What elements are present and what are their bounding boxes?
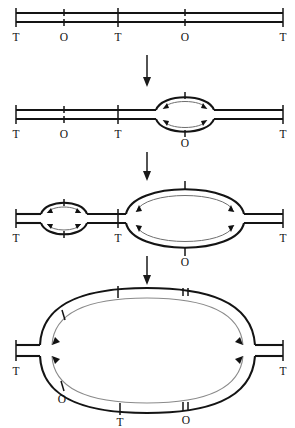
panel-2-bubble [156,92,214,137]
site-label-t-right: T [279,128,286,140]
site-label-o-right: O [182,414,190,426]
site-label-o-1: O [60,31,68,43]
site-label-t-left: T [12,128,19,140]
arrow-head-down-icon [143,171,151,181]
replication-diagram-svg: T O T O T [0,0,295,428]
panel-4-giant-eye [40,286,255,415]
site-label-t-right: T [279,31,286,43]
stage-arrow-3-4 [143,256,151,285]
panel-3-bubble-small [41,199,87,238]
stage-arrow-2-3 [143,152,151,181]
fork-arrow-lower-right-icon [201,120,207,126]
site-label-t-middle: T [116,416,123,428]
panel-2-labels: T O T O T [12,128,286,149]
panel-3-duplex [16,214,283,223]
site-label-o-1: O [60,128,68,140]
stage-arrow-1-2 [143,55,151,87]
panel-4-labels: T O T O T [12,365,286,428]
panel-1-duplex [16,13,283,22]
panel-2: T O T O T [12,92,286,149]
replication-figure: T O T O T [0,0,295,428]
eye-upper-outer-arc [40,288,255,345]
nascent-strand-lower [136,225,234,242]
site-label-t-middle: T [114,232,121,244]
site-label-t-right: T [279,232,286,244]
panel-4-stub-right [255,345,283,356]
bubble-upper-arc [126,189,244,214]
fork-arrow-upper-left-icon [163,103,169,109]
site-label-t-middle: T [114,31,121,43]
panel-4-stub-left [16,345,40,356]
site-label-o-left: O [58,393,66,405]
nascent-strand-lower [163,120,207,128]
eye-lower-outer-arc [40,356,255,413]
nascent-strand-upper [136,196,234,213]
site-label-t-left: T [12,232,19,244]
panel-3-bubble-large [126,181,244,256]
site-label-t-left: T [12,31,19,43]
panel-2-site-markers [16,105,283,124]
arrow-head-down-icon [143,77,151,87]
fork-arrow-upper-right-icon [201,103,207,109]
panel-2-duplex [16,110,283,119]
panel-4: T O T O T [12,286,286,428]
fork-arrow-lower-left-icon [163,120,169,126]
panel-1: T O T O T [12,8,286,43]
panel-1-site-markers [16,8,283,27]
bubble-lower-arc [126,223,244,248]
panel-3-labels: T T O T [12,232,286,268]
site-label-o-2: O [181,256,189,268]
panel-1-labels: T O T O T [12,31,286,43]
site-label-o-2: O [181,137,189,149]
eye-lower-inner-arc [52,356,243,403]
eye-upper-inner-arc [52,298,243,345]
site-label-o-2: O [181,31,189,43]
nascent-strand-upper [163,102,207,110]
panel-3: T T O T [12,181,286,268]
arrow-head-down-icon [143,275,151,285]
site-label-t-left: T [12,365,19,377]
site-label-t-middle: T [114,128,121,140]
site-label-t-right: T [279,365,286,377]
